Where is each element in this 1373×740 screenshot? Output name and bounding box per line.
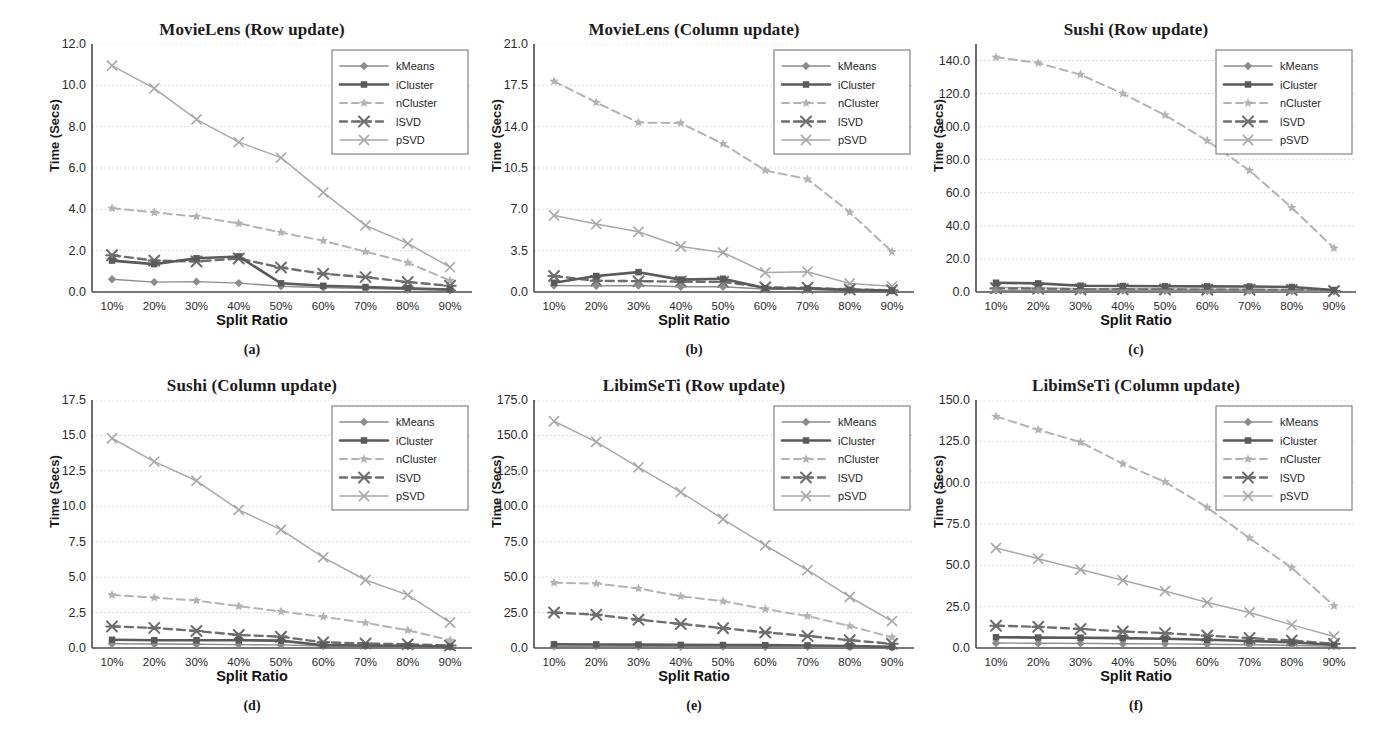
series-marker-pSVD (676, 488, 685, 497)
series-marker-nCluster (1329, 601, 1339, 610)
legend-label-kMeans: kMeans (838, 60, 877, 72)
legend-label-nCluster: nCluster (838, 453, 879, 465)
series-marker-nCluster (318, 236, 328, 245)
series-marker-nCluster (318, 612, 328, 621)
x-tick-label: 90% (438, 300, 461, 312)
series-marker-iCluster (236, 253, 243, 260)
y-tick-label: 3.5 (478, 244, 528, 258)
series-marker-iCluster (320, 642, 327, 649)
series-marker-nCluster (718, 596, 728, 605)
series-marker-nCluster (276, 606, 286, 615)
y-tick-label: 12.5 (36, 464, 86, 478)
y-tick-labels: 0.025.050.075.0100.0125.0150.0175.0 (470, 400, 528, 660)
x-tick-label: 70% (354, 300, 377, 312)
x-tick-label: 80% (1280, 300, 1303, 312)
series-marker-pSVD (276, 525, 285, 534)
series-marker-pSVD (991, 543, 1000, 552)
series-marker-lSVD (275, 263, 287, 273)
y-tick-labels: 0.025.050.075.0100.0125.0150.0 (912, 400, 970, 660)
y-tick-label: 125.0 (920, 434, 970, 448)
y-tick-label: 40.0 (920, 219, 970, 233)
legend: kMeansiClusternClusterlSVDpSVD (332, 406, 468, 510)
series-marker-nCluster (403, 625, 413, 634)
x-tick-label: 50% (269, 656, 292, 668)
series-marker-nCluster (234, 601, 244, 610)
legend-label-pSVD: pSVD (838, 134, 867, 146)
x-axis-label: Split Ratio (470, 312, 918, 328)
x-tick-label: 70% (796, 300, 819, 312)
x-tick-label: 70% (796, 656, 819, 668)
y-tick-label: 10.0 (36, 78, 86, 92)
x-tick-label: 80% (396, 300, 419, 312)
series-marker-iCluster (1204, 283, 1211, 290)
series-marker-iCluster (762, 642, 769, 649)
series-marker-nCluster (634, 583, 644, 592)
legend-label-pSVD: pSVD (396, 134, 425, 146)
series-line-nCluster (112, 595, 450, 640)
panel-caption: (f) (912, 698, 1360, 714)
legend: kMeansiClusternClusterlSVDpSVD (332, 50, 468, 154)
legend-label-lSVD: lSVD (1280, 472, 1305, 484)
series-marker-lSVD (106, 621, 118, 631)
x-tick-label: 30% (1069, 300, 1092, 312)
series-marker-iCluster (1246, 283, 1253, 290)
y-tick-label: 15.0 (36, 428, 86, 442)
y-tick-label: 6.0 (36, 161, 86, 175)
legend-label-nCluster: nCluster (396, 97, 437, 109)
series-marker-pSVD (192, 476, 201, 485)
legend-label-kMeans: kMeans (1280, 60, 1319, 72)
x-tick-label: 40% (1111, 300, 1134, 312)
y-tick-label: 0.0 (478, 641, 528, 655)
y-tick-label: 140.0 (920, 54, 970, 68)
y-tick-label: 100.0 (920, 120, 970, 134)
legend-label-kMeans: kMeans (838, 416, 877, 428)
series-marker-iCluster (551, 641, 558, 648)
series-marker-nCluster (149, 593, 159, 602)
series-marker-lSVD (548, 608, 560, 618)
series-marker-nCluster (760, 604, 770, 613)
y-tick-label: 20.0 (920, 252, 970, 266)
y-tick-label: 4.0 (36, 202, 86, 216)
x-axis-label: Split Ratio (912, 668, 1360, 684)
chart-panel-e: LibimSeTi (Row update)Time (Secs)0.025.0… (470, 368, 918, 726)
series-marker-iCluster (847, 643, 854, 650)
y-tick-label: 175.0 (478, 393, 528, 407)
series-marker-kMeans (235, 279, 243, 287)
series-marker-lSVD (149, 623, 161, 633)
series-marker-pSVD (403, 590, 412, 599)
plot-svg: kMeansiClusternClusterlSVDpSVD (532, 44, 918, 300)
series-marker-iCluster (1162, 283, 1169, 290)
series-marker-nCluster (149, 207, 159, 216)
series-marker-pSVD (234, 138, 243, 147)
legend-label-nCluster: nCluster (396, 453, 437, 465)
x-tick-label: 20% (585, 656, 608, 668)
y-tick-label: 0.0 (36, 285, 86, 299)
chart-panel-b: MovieLens (Column update)Time (Secs)0.03… (470, 12, 918, 370)
panel-title: LibimSeTi (Column update) (912, 376, 1360, 396)
x-tick-label: 40% (227, 656, 250, 668)
legend-label-iCluster: iCluster (1280, 435, 1318, 447)
x-tick-label: 50% (269, 300, 292, 312)
legend-label-nCluster: nCluster (1280, 453, 1321, 465)
series-marker-kMeans (634, 281, 642, 289)
series-marker-nCluster (591, 579, 601, 588)
x-tick-label: 30% (185, 656, 208, 668)
series-marker-nCluster (991, 412, 1001, 421)
series-marker-lSVD (1075, 624, 1087, 634)
y-tick-label: 80.0 (920, 153, 970, 167)
series-marker-lSVD (717, 623, 729, 633)
x-tick-label: 40% (669, 656, 692, 668)
series-marker-nCluster (276, 227, 286, 236)
y-tick-label: 75.0 (920, 517, 970, 531)
panel-caption: (b) (470, 342, 918, 358)
series-marker-iCluster (678, 642, 685, 649)
y-tick-label: 21.0 (478, 37, 528, 51)
series-marker-iCluster (1289, 639, 1296, 646)
series-marker-iCluster (993, 634, 1000, 641)
series-marker-pSVD (592, 437, 601, 446)
panel-title: Sushi (Row update) (912, 20, 1360, 40)
legend: kMeansiClusternClusterlSVDpSVD (774, 50, 910, 154)
y-tick-label: 0.0 (36, 641, 86, 655)
panel-caption: (d) (28, 698, 476, 714)
series-marker-iCluster (593, 273, 600, 280)
